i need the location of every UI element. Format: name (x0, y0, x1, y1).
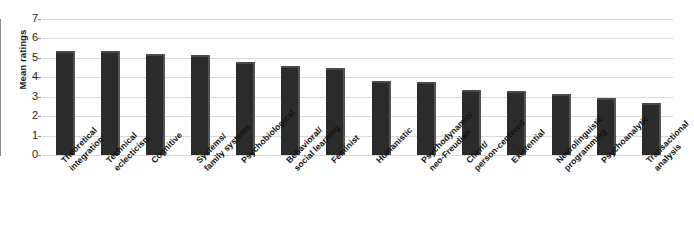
y-axis-tick-labels: 01234567 (8, 19, 38, 156)
y-axis-tick-label: 3 (16, 91, 38, 102)
y-axis-tick-label: 4 (16, 71, 38, 82)
bar-top-face (281, 66, 298, 68)
bar-top-face (101, 51, 118, 53)
gridline (42, 38, 673, 39)
y-axis-line (0, 19, 1, 156)
y-axis-tick-label: 1 (16, 130, 38, 141)
bar-top-face (56, 51, 73, 53)
y-axis-tick-label: 6 (16, 32, 38, 43)
y-axis-tick-label: 5 (16, 52, 38, 63)
bar-top-face (236, 62, 253, 64)
y-axis-tick-label: 2 (16, 110, 38, 121)
bar (56, 53, 73, 155)
bar-top-face (146, 54, 163, 56)
bar-top-face (462, 90, 479, 92)
bar-top-face (372, 81, 389, 83)
bar-top-face (326, 68, 343, 70)
y-axis-tick-mark (38, 19, 41, 20)
y-axis-tick-mark (38, 116, 41, 117)
gridline (42, 77, 673, 78)
x-axis-category-labels: Theoretical integrationTechnical eclecti… (42, 158, 673, 240)
gridline (42, 19, 673, 20)
y-axis-tick-mark (38, 38, 41, 39)
y-axis-tick-mark (38, 136, 41, 137)
y-axis-tick-label: 0 (16, 149, 38, 160)
gridline (42, 116, 673, 117)
bar-top-face (191, 55, 208, 57)
y-axis-tick-label: 7 (16, 13, 38, 24)
y-axis-tick-mark (38, 155, 41, 156)
gridline (42, 58, 673, 59)
y-axis-tick-mark (38, 58, 41, 59)
bar-side-face (73, 51, 75, 155)
y-axis-tick-mark (38, 77, 41, 78)
y-axis-tick-mark (38, 97, 41, 98)
bar-top-face (417, 82, 434, 84)
